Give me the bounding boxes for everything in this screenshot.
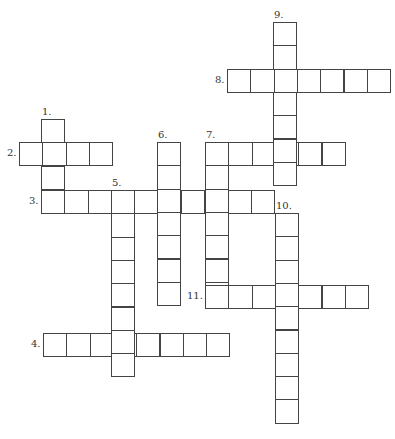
crossword-cell[interactable] bbox=[273, 22, 297, 46]
cell-input[interactable] bbox=[276, 354, 298, 376]
crossword-cell[interactable] bbox=[273, 139, 297, 163]
crossword-cell[interactable] bbox=[275, 283, 299, 307]
cell-input[interactable] bbox=[184, 334, 206, 356]
cell-input[interactable] bbox=[158, 190, 180, 212]
cell-input[interactable] bbox=[158, 260, 180, 282]
crossword-cell[interactable] bbox=[251, 190, 275, 214]
crossword-cell[interactable] bbox=[88, 190, 112, 214]
crossword-cell[interactable] bbox=[134, 190, 158, 214]
cell-input[interactable] bbox=[89, 191, 111, 213]
cell-input[interactable] bbox=[182, 191, 204, 213]
crossword-cell[interactable] bbox=[181, 190, 205, 214]
cell-input[interactable] bbox=[298, 70, 320, 92]
crossword-cell[interactable] bbox=[157, 259, 181, 283]
cell-input[interactable] bbox=[276, 307, 298, 329]
crossword-cell[interactable] bbox=[89, 142, 113, 166]
cell-input[interactable] bbox=[161, 334, 183, 356]
crossword-cell[interactable] bbox=[157, 212, 181, 236]
crossword-cell[interactable] bbox=[275, 213, 299, 237]
crossword-cell[interactable] bbox=[160, 333, 184, 357]
crossword-cell[interactable] bbox=[367, 69, 391, 93]
crossword-cell[interactable] bbox=[111, 283, 135, 307]
cell-input[interactable] bbox=[207, 334, 229, 356]
crossword-cell[interactable] bbox=[322, 142, 346, 166]
cell-input[interactable] bbox=[274, 116, 296, 138]
crossword-cell[interactable] bbox=[298, 285, 322, 309]
crossword-cell[interactable] bbox=[157, 282, 181, 306]
crossword-cell[interactable] bbox=[111, 190, 135, 214]
crossword-cell[interactable] bbox=[274, 69, 298, 93]
cell-input[interactable] bbox=[276, 331, 298, 353]
crossword-cell[interactable] bbox=[205, 259, 229, 283]
cell-input[interactable] bbox=[323, 143, 345, 165]
crossword-cell[interactable] bbox=[275, 260, 299, 284]
cell-input[interactable] bbox=[67, 334, 89, 356]
crossword-cell[interactable] bbox=[322, 285, 346, 309]
crossword-cell[interactable] bbox=[42, 142, 66, 166]
crossword-cell[interactable] bbox=[41, 166, 65, 190]
crossword-cell[interactable] bbox=[206, 333, 230, 357]
cell-input[interactable] bbox=[252, 191, 274, 213]
cell-input[interactable] bbox=[229, 143, 251, 165]
crossword-cell[interactable] bbox=[273, 92, 297, 116]
crossword-cell[interactable] bbox=[111, 307, 135, 331]
crossword-cell[interactable] bbox=[275, 306, 299, 330]
crossword-cell[interactable] bbox=[111, 330, 135, 354]
cell-input[interactable] bbox=[346, 286, 368, 308]
cell-input[interactable] bbox=[253, 286, 275, 308]
crossword-cell[interactable] bbox=[273, 162, 297, 186]
cell-input[interactable] bbox=[274, 163, 296, 185]
cell-input[interactable] bbox=[158, 166, 180, 188]
cell-input[interactable] bbox=[206, 190, 228, 212]
cell-input[interactable] bbox=[251, 70, 273, 92]
cell-input[interactable] bbox=[112, 331, 134, 353]
cell-input[interactable] bbox=[158, 213, 180, 235]
cell-input[interactable] bbox=[321, 70, 343, 92]
crossword-cell[interactable] bbox=[205, 189, 229, 213]
cell-input[interactable] bbox=[135, 191, 157, 213]
cell-input[interactable] bbox=[368, 70, 390, 92]
crossword-cell[interactable] bbox=[275, 236, 299, 260]
crossword-cell[interactable] bbox=[298, 142, 322, 166]
cell-input[interactable] bbox=[275, 70, 297, 92]
crossword-cell[interactable] bbox=[344, 69, 368, 93]
cell-input[interactable] bbox=[90, 143, 112, 165]
cell-input[interactable] bbox=[158, 236, 180, 258]
cell-input[interactable] bbox=[42, 120, 64, 142]
crossword-cell[interactable] bbox=[227, 69, 251, 93]
crossword-cell[interactable] bbox=[157, 165, 181, 189]
cell-input[interactable] bbox=[206, 286, 228, 308]
crossword-cell[interactable] bbox=[41, 190, 65, 214]
crossword-cell[interactable] bbox=[136, 333, 160, 357]
cell-input[interactable] bbox=[228, 70, 250, 92]
cell-input[interactable] bbox=[65, 191, 87, 213]
cell-input[interactable] bbox=[67, 143, 89, 165]
crossword-cell[interactable] bbox=[157, 235, 181, 259]
crossword-cell[interactable] bbox=[273, 45, 297, 69]
cell-input[interactable] bbox=[112, 354, 134, 376]
cell-input[interactable] bbox=[112, 261, 134, 283]
cell-input[interactable] bbox=[299, 286, 321, 308]
cell-input[interactable] bbox=[206, 166, 228, 188]
crossword-cell[interactable] bbox=[111, 353, 135, 377]
cell-input[interactable] bbox=[44, 334, 66, 356]
crossword-cell[interactable] bbox=[275, 330, 299, 354]
cell-input[interactable] bbox=[206, 143, 228, 165]
crossword-cell[interactable] bbox=[66, 142, 90, 166]
crossword-cell[interactable] bbox=[252, 285, 276, 309]
crossword-cell[interactable] bbox=[205, 142, 229, 166]
crossword-cell[interactable] bbox=[157, 142, 181, 166]
cell-input[interactable] bbox=[276, 377, 298, 399]
crossword-cell[interactable] bbox=[205, 212, 229, 236]
cell-input[interactable] bbox=[228, 191, 250, 213]
cell-input[interactable] bbox=[206, 213, 228, 235]
cell-input[interactable] bbox=[276, 237, 298, 259]
crossword-cell[interactable] bbox=[157, 189, 181, 213]
crossword-cell[interactable] bbox=[320, 69, 344, 93]
crossword-cell[interactable] bbox=[250, 69, 274, 93]
cell-input[interactable] bbox=[42, 191, 64, 213]
crossword-cell[interactable] bbox=[183, 333, 207, 357]
crossword-cell[interactable] bbox=[43, 333, 67, 357]
cell-input[interactable] bbox=[112, 191, 134, 213]
cell-input[interactable] bbox=[158, 283, 180, 305]
